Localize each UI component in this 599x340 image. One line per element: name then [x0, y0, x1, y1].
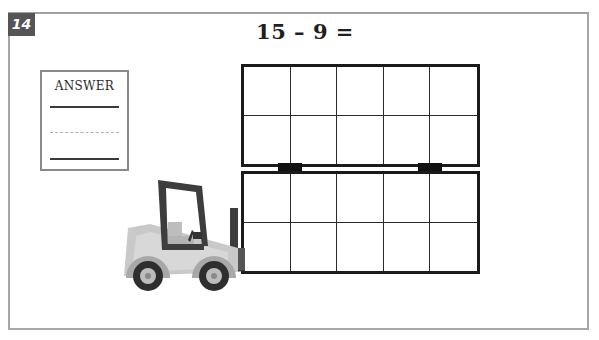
answer-line-bottom	[50, 158, 119, 160]
frame-cell[interactable]	[430, 223, 477, 272]
frame-cell[interactable]	[430, 174, 477, 223]
answer-label: ANSWER	[42, 79, 127, 93]
frame-cell[interactable]	[337, 223, 384, 272]
answer-line-top	[50, 106, 119, 108]
frame-cell[interactable]	[384, 174, 431, 223]
frame-cell[interactable]	[384, 116, 431, 165]
rear-wheel	[133, 261, 163, 291]
frame-cell[interactable]	[291, 116, 338, 165]
frame-connector-right	[418, 163, 442, 171]
ten-frame-bottom	[241, 171, 480, 274]
frame-cell[interactable]	[244, 116, 291, 165]
answer-box[interactable]: ANSWER	[40, 70, 129, 171]
frame-cell[interactable]	[244, 174, 291, 223]
ten-frame-top	[241, 64, 480, 167]
frame-cell[interactable]	[291, 174, 338, 223]
frame-cell[interactable]	[291, 67, 338, 116]
frame-cell[interactable]	[430, 116, 477, 165]
frame-cell[interactable]	[244, 223, 291, 272]
frame-cell[interactable]	[291, 223, 338, 272]
frame-cell[interactable]	[244, 67, 291, 116]
frame-cell[interactable]	[337, 116, 384, 165]
frame-cell[interactable]	[337, 67, 384, 116]
frame-cell[interactable]	[337, 174, 384, 223]
frame-cell[interactable]	[384, 67, 431, 116]
equation-text: 15 – 9 =	[230, 19, 380, 44]
problem-number-badge: 14	[8, 13, 35, 36]
answer-line-middle-dashed	[50, 132, 119, 133]
frame-connector-left	[278, 163, 302, 171]
front-wheel	[199, 261, 229, 291]
forklift-icon	[110, 172, 245, 294]
frame-cell[interactable]	[430, 67, 477, 116]
frame-cell[interactable]	[384, 223, 431, 272]
